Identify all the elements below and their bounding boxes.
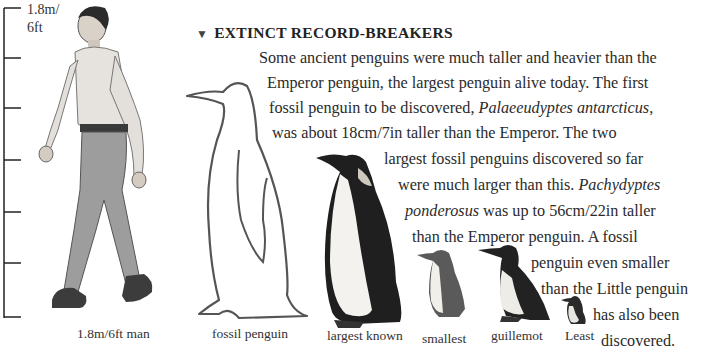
body-line: was about 18cm/7in taller than the Emper… (272, 120, 617, 146)
caption-fossil-penguin: fossil penguin (212, 326, 288, 342)
body-line: than the Little penguin (541, 276, 688, 302)
body-line: Emperor penguin, the largest penguin ali… (267, 70, 648, 96)
species-name: Palaeeudyptes antarcticus (479, 99, 650, 117)
smallest-penguin (417, 247, 467, 322)
body-line: penguin even smaller (531, 250, 669, 276)
species-name: Pachydyptes (578, 176, 660, 194)
body-line: fossil penguin to be discovered, Palaeeu… (269, 95, 653, 121)
section-heading: ▼EXTINCT RECORD-BREAKERS (196, 24, 453, 42)
body-line: were much larger than this. Pachydyptes (398, 172, 660, 198)
body-line: than the Emperor penguin. A fossil (412, 224, 638, 250)
body-line: discovered. (601, 328, 675, 350)
section-heading-text: EXTINCT RECORD-BREAKERS (214, 24, 453, 41)
caption-guillemot: guillemot (491, 328, 543, 344)
man-illustration (30, 0, 200, 320)
body-line: largest fossil penguins discovered so fa… (384, 146, 643, 172)
body-line: Some ancient penguins were much taller a… (259, 45, 657, 71)
caption-smallest: smallest (422, 331, 466, 347)
caption-least: Least (565, 328, 594, 344)
body-line: has also been (593, 302, 679, 328)
caption-man: 1.8m/6ft man (77, 326, 150, 342)
triangle-bullet-icon: ▼ (196, 27, 208, 42)
caption-largest-known: largest known (327, 328, 403, 344)
body-line: ponderosus was up to 56cm/22in taller (405, 198, 656, 224)
species-name: ponderosus (405, 202, 479, 220)
